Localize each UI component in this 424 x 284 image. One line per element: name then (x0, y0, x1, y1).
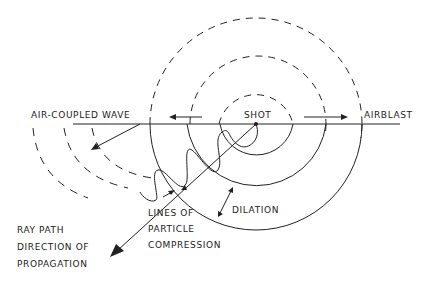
airblast-left-arrowhead-icon (169, 114, 176, 120)
label-compression: COMPRESSION (148, 241, 221, 250)
label-ray-path: RAY PATH (17, 226, 64, 235)
label-shot: SHOT (244, 111, 271, 120)
compression-arrowhead-icon (168, 190, 175, 195)
airblast-wavefronts (150, 18, 362, 124)
label-airblast: AIRBLAST (364, 111, 413, 120)
label-dilation: DILATION (232, 206, 279, 215)
air-coupled-wavefronts (33, 128, 152, 198)
airblast-right-arrowhead-icon (341, 114, 348, 120)
label-propagation: PROPAGATION (17, 260, 88, 269)
dilation-arrow-line (219, 189, 232, 215)
label-air-coupled-wave: AIR-COUPLED WAVE (31, 111, 130, 120)
label-direction-of: DIRECTION OF (17, 243, 89, 252)
shot-point (254, 122, 258, 126)
label-particle: PARTICLE (148, 225, 195, 234)
air-coupled-arrow-line (96, 124, 140, 147)
label-lines-of: LINES OF (148, 209, 194, 218)
